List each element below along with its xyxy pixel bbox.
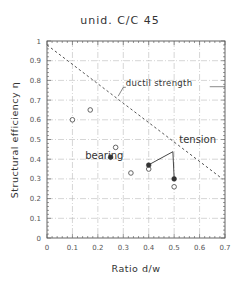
y-tick-label: 0.2 bbox=[30, 195, 41, 203]
y-tick-label: 0.6 bbox=[30, 116, 42, 124]
x-tick-label: 0.7 bbox=[219, 244, 230, 252]
y-tick-label: 0.1 bbox=[30, 215, 41, 223]
reference-lines bbox=[47, 45, 222, 179]
x-tick-label: 0 bbox=[45, 244, 49, 252]
y-axis-label: Structural efficiency η bbox=[9, 82, 20, 198]
x-tick-label: 0.2 bbox=[92, 244, 103, 252]
filled-circle-marker bbox=[146, 163, 151, 168]
y-tick-label: 0.7 bbox=[30, 97, 41, 105]
y-tick-label: 0.8 bbox=[30, 77, 41, 85]
x-axis-label: Ratio d/w bbox=[112, 263, 161, 274]
ductil-strength-line bbox=[47, 45, 222, 179]
ductil-leader bbox=[118, 87, 126, 96]
open-circle-marker bbox=[70, 118, 75, 123]
x-tick-label: 0.6 bbox=[194, 244, 206, 252]
y-tick-label: 0.4 bbox=[30, 156, 42, 164]
annotation-tension: tension bbox=[179, 134, 216, 145]
annotation-bearing: bearing bbox=[85, 150, 123, 161]
filled-circle-marker bbox=[172, 177, 177, 182]
x-tick-label: 0.3 bbox=[118, 244, 129, 252]
open-circle-marker bbox=[88, 108, 93, 113]
y-tick-label: 0.9 bbox=[30, 57, 41, 65]
y-tick-label: 1 bbox=[37, 38, 41, 46]
x-tick-label: 0.5 bbox=[169, 244, 180, 252]
open-circle-marker bbox=[129, 171, 134, 176]
annotation-ductil-strength: ductil strength bbox=[126, 78, 193, 88]
scatter-chart: 00.10.20.30.40.50.60.700.10.20.30.40.50.… bbox=[0, 0, 240, 288]
open-circle-marker bbox=[113, 145, 118, 150]
y-tick-label: 0.3 bbox=[30, 175, 41, 183]
open-circle-marker bbox=[172, 184, 177, 189]
tension-leader bbox=[150, 152, 174, 178]
x-tick-label: 0.4 bbox=[143, 244, 155, 252]
x-tick-label: 0.1 bbox=[67, 244, 78, 252]
y-tick-label: 0.5 bbox=[30, 136, 41, 144]
y-tick-label: 0 bbox=[37, 235, 41, 243]
